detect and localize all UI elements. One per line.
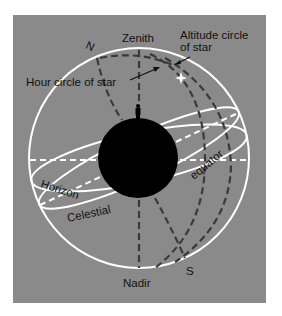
- altitude-circle-arrowhead: [174, 60, 181, 65]
- meridian-arc-south: [155, 198, 185, 258]
- celestial-sphere-diagram: Zenith Altitude circle of star N Hour ci…: [0, 0, 282, 316]
- label-south: S: [186, 265, 194, 277]
- label-nadir: Nadir: [123, 277, 151, 289]
- label-altitude-circle-line2: of star: [180, 41, 212, 53]
- label-horizon: Horizon: [39, 177, 80, 201]
- hour-circle-arrowhead: [153, 67, 160, 72]
- label-zenith: Zenith: [122, 32, 154, 44]
- label-north: N: [84, 39, 97, 53]
- label-hour-circle: Hour circle of star: [26, 76, 116, 88]
- earth: [98, 118, 178, 198]
- meridian-arc-north: [97, 58, 122, 120]
- observer-figure-icon: [136, 104, 141, 119]
- label-altitude-circle-line1: Altitude circle: [180, 29, 248, 41]
- label-equator: equator: [188, 147, 226, 181]
- hour-circle-pointer: [130, 68, 158, 80]
